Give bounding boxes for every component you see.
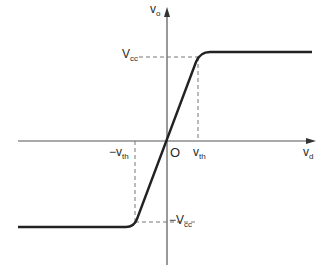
neg-vth-prefix: −: [109, 145, 116, 159]
y-axis-label: vo: [150, 3, 160, 15]
vcc-sub: cc: [130, 54, 138, 63]
vth-sub: th: [199, 152, 206, 161]
neg-vcc-main: V: [176, 213, 184, 227]
neg-vth-label: −vth: [109, 146, 129, 158]
x-axis-label: vd: [303, 146, 313, 158]
x-axis-arrow-icon: [306, 138, 316, 144]
diagram-canvas: [0, 0, 329, 268]
x-label-sub: d: [309, 152, 313, 161]
origin-label: O: [170, 146, 180, 159]
neg-vcc-label: −Vcc: [169, 214, 192, 226]
transfer-characteristic-diagram: vo Vcc O vth −vth −Vcc vd: [0, 0, 329, 268]
y-axis-arrow-icon: [164, 7, 170, 17]
vcc-main: V: [122, 47, 130, 61]
neg-vcc-sub: cc: [184, 220, 192, 229]
vth-label: vth: [193, 146, 206, 158]
transfer-curve: [18, 52, 312, 227]
neg-vth-sub: th: [122, 152, 129, 161]
neg-vcc-prefix: −: [169, 213, 176, 227]
vcc-label: Vcc: [122, 48, 138, 60]
y-label-sub: o: [156, 9, 160, 18]
